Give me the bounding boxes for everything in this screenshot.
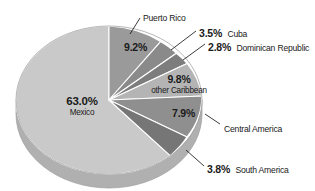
label-mexico-name: Mexico [47,109,117,118]
leader-line-dominican-republic [183,44,205,60]
label-dominican-republic-name: Dominican Republic [236,43,309,53]
label-mexico: 63.0% Mexico [47,92,117,117]
leader-line-cuba [171,31,196,50]
label-other-caribbean: 9.8% other Caribbean [133,70,225,95]
label-central-america-name-text: Central America [224,124,282,134]
pie-chart: 63.0% Mexico Puerto Rico 9.2% 3.5% Cuba … [0,0,315,191]
label-central-america-name: Central America [224,119,282,136]
label-dominican-republic: 2.8% Dominican Republic [208,38,309,55]
label-south-america-name: South America [235,165,288,175]
label-south-america: 3.8% South America [207,160,289,177]
label-dominican-republic-percent: 2.8% [208,41,231,53]
label-south-america-percent: 3.8% [207,163,230,175]
label-other-caribbean-name: other Caribbean [133,87,225,96]
leader-line-south-america [186,150,204,166]
label-puerto-rico-name: Puerto Rico [143,8,186,25]
label-central-america-percent: 7.9% [172,104,195,121]
label-mexico-percent: 63.0% [66,95,98,107]
leader-line-central-america [205,114,220,124]
label-puerto-rico-percent: 9.2% [124,38,147,55]
label-other-caribbean-percent: 9.8% [167,73,190,85]
label-puerto-rico-percent-text: 9.2% [124,41,147,53]
label-puerto-rico-text: Puerto Rico [143,13,186,23]
label-central-america-percent-text: 7.9% [172,107,195,119]
